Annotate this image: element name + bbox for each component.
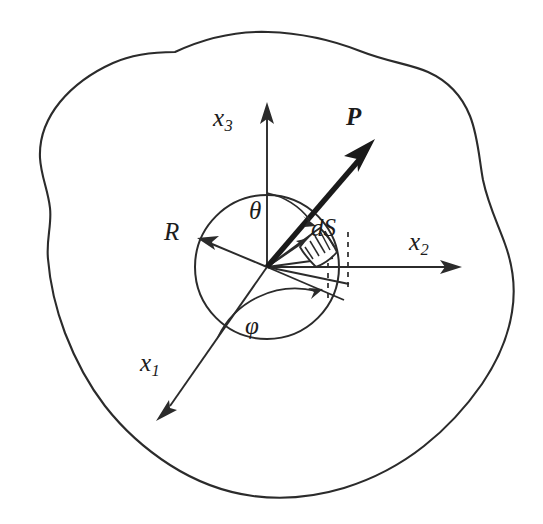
p-vector-arrowhead-icon [344, 139, 375, 172]
radius-vector-line [212, 244, 267, 267]
spherical-coordinates-diagram [0, 0, 543, 524]
azimuth-ray-line [267, 267, 344, 300]
theta-arc [267, 193, 310, 220]
theta-label: θ [249, 198, 261, 223]
p-vector-label: P [346, 104, 361, 129]
patch-base-ray-line [267, 267, 349, 284]
axis-x1-arrowhead-icon [156, 400, 177, 421]
axis-label-x2: x2 [409, 229, 429, 259]
radius-vector-arrowhead-icon [197, 236, 219, 250]
radius-label: R [164, 219, 179, 244]
axis-label-x3: x3 [213, 105, 233, 135]
phi-label: φ [245, 313, 259, 338]
surface-element-label: dS [311, 215, 336, 240]
axis-label-x1: x1 [140, 350, 160, 380]
figure-canvas: x3 x2 x1 R θ φ dS P [0, 0, 543, 524]
